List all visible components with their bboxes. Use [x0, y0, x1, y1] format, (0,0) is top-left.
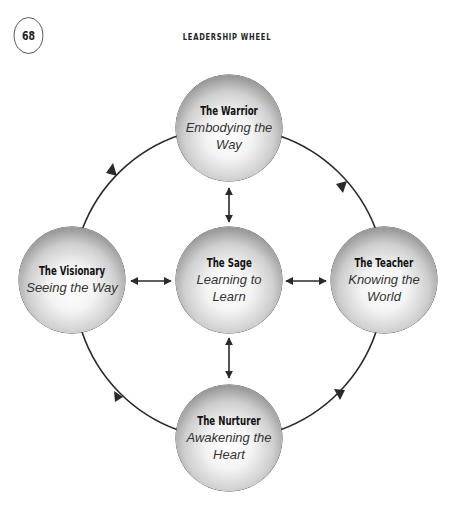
arc-nurturer-to-visionary [82, 332, 178, 430]
node-teacher-subtitle: Knowing the World [338, 271, 430, 305]
arc-visionary-to-warrior [82, 135, 180, 230]
node-visionary-title: The Visionary [39, 264, 105, 278]
arrowhead-down-right-icon [336, 181, 347, 193]
node-nurturer-subtitle: Awakening the Heart [180, 429, 278, 463]
arc-warrior-to-teacher [280, 136, 376, 230]
node-teacher-title: The Teacher [355, 256, 414, 270]
node-nurturer: The Nurturer Awakening the Heart [176, 385, 282, 491]
node-teacher: The Teacher Knowing the World [331, 227, 437, 333]
arc-teacher-to-nurturer [280, 332, 376, 430]
node-warrior: The Warrior Embodying the Way [176, 75, 282, 181]
node-warrior-title: The Warrior [200, 104, 258, 118]
node-sage: The Sage Learning to Learn [176, 227, 282, 333]
node-visionary: The Visionary Seeing the Way [19, 227, 125, 333]
arrowhead-up-left-icon [106, 163, 117, 176]
node-sage-title: The Sage [206, 256, 251, 270]
node-visionary-subtitle: Seeing the Way [26, 279, 118, 296]
node-nurturer-title: The Nurturer [197, 414, 260, 428]
node-warrior-subtitle: Embodying the Way [183, 119, 275, 153]
node-sage-subtitle: Learning to Learn [194, 271, 264, 305]
